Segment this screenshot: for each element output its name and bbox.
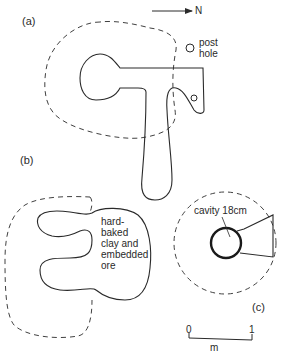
scale-end-label: 1 xyxy=(249,324,255,335)
panel-a-post-hole-icon xyxy=(191,95,197,101)
hearth-annotation: hard- baked clay and embedded ore xyxy=(101,216,148,271)
scale-unit-label: m xyxy=(210,342,218,353)
post-hole-annotation: post hole xyxy=(199,37,218,59)
north-label: N xyxy=(195,6,202,16)
panel-b-dashed-boundary xyxy=(5,197,92,338)
panel-c-flue-outline xyxy=(237,215,273,257)
archaeological-furnace-plans: N (a) (b) (c) post hole hard- baked clay… xyxy=(0,0,281,356)
panel-c-cavity-icon xyxy=(211,228,241,258)
panel-b-dashed-boundary-top xyxy=(90,197,92,212)
panel-b-label: (b) xyxy=(20,155,33,166)
panel-a-dashed-boundary xyxy=(45,21,176,138)
panel-c-cavity-leader xyxy=(222,217,230,237)
panel-a-label: (a) xyxy=(22,16,35,27)
panel-c-label: (c) xyxy=(252,302,265,313)
scale-bar-icon xyxy=(189,333,252,340)
diagram-drawing xyxy=(0,0,281,356)
post-hole-legend-icon xyxy=(186,44,194,52)
cavity-annotation: cavity 18cm xyxy=(194,205,247,216)
panel-a-furnace-outline xyxy=(80,54,204,200)
scale-start-label: 0 xyxy=(186,324,192,335)
